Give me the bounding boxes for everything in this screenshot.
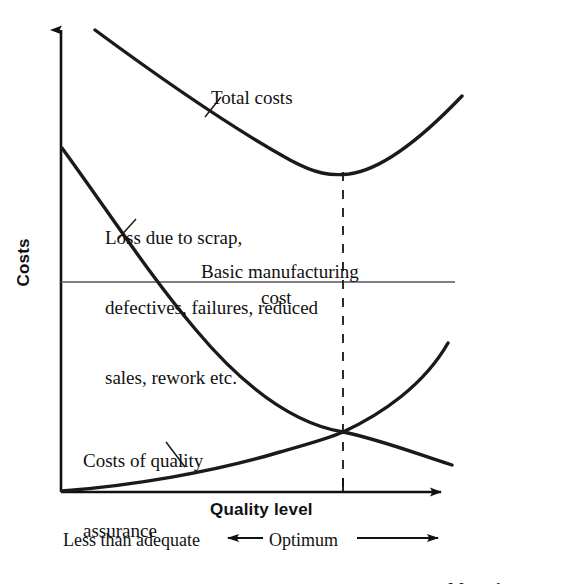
y-axis-title: Costs [14,222,35,302]
loss-annotation-line-3: sales, rework etc. [105,366,318,389]
quality-assurance-line-1: Costs of quality [83,449,203,472]
basic-manufacturing-cost-label-bottom: cost [261,286,292,309]
scale-label-more-than-adequate-line-1: More than [448,578,522,584]
x-axis-title: Quality level [210,500,313,521]
scale-label-more-than-adequate: More than adequate [448,529,522,584]
scale-label-optimum: Optimum [269,529,338,551]
quality-cost-chart: Costs Quality level Total costs Loss due… [0,0,576,584]
total-costs-label: Total costs [211,86,293,109]
quality-assurance-annotation: Costs of quality assurance [83,402,203,584]
loss-annotation-line-1: Loss due to scrap, [105,226,318,249]
scale-label-less-than-adequate: Less than adequate [63,529,200,551]
basic-manufacturing-cost-label-top: Basic manufacturing [201,260,359,283]
